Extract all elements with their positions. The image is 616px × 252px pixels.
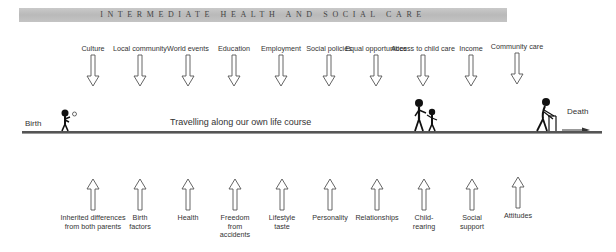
arrow-right-icon (562, 119, 590, 137)
factor-label: Child-rearing (411, 214, 437, 231)
factor-label: Community care (482, 43, 552, 52)
arrow-down-icon (482, 52, 552, 86)
life-course-line (22, 131, 602, 134)
birth-label: Birth (25, 119, 41, 128)
page-title: INTERMEDIATE HEALTH AND SOCIAL CARE (19, 8, 507, 22)
factor-label: Attitudes (483, 212, 553, 221)
elderly-with-walker-icon (534, 97, 560, 136)
personal-factor-attitudes: Attitudes (483, 175, 553, 221)
adult-and-child-icon (412, 98, 442, 136)
timeline-caption: Travelling along our own life course (170, 117, 311, 127)
header-banner: INTERMEDIATE HEALTH AND SOCIAL CARE (19, 8, 507, 22)
death-label: Death (567, 107, 588, 116)
external-factor-community-care: Community care (482, 28, 552, 86)
arrow-up-icon (483, 175, 553, 209)
child-figure-icon (58, 108, 82, 136)
